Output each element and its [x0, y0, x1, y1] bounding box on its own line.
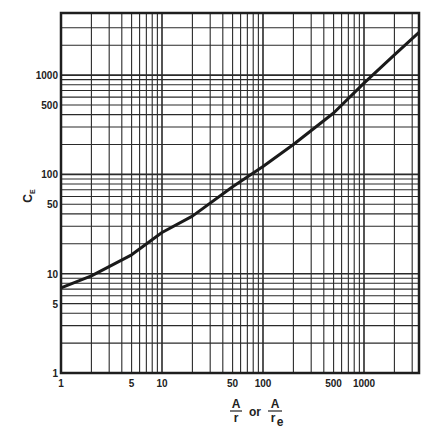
y-tick-label: 500: [41, 100, 58, 111]
y-tick-label: 1: [52, 368, 58, 379]
x-label-den2-sub: e: [277, 415, 284, 429]
x-label-den2: r: [271, 411, 276, 425]
x-tick-label: 500: [325, 378, 342, 389]
x-tick-label: 50: [227, 378, 239, 389]
y-tick-label: 50: [47, 199, 59, 210]
y-label-sub: E: [29, 189, 36, 194]
x-label-or: or: [249, 405, 261, 419]
data-curve: [61, 32, 419, 288]
x-axis-label: A r or A r e: [230, 397, 284, 429]
x-tick-label: 5: [129, 378, 135, 389]
x-tick-label: 100: [255, 378, 272, 389]
y-tick-label: 10: [47, 269, 59, 280]
y-tick-label: 1000: [36, 70, 59, 81]
y-axis-ticks: 1510501005001000: [36, 70, 59, 379]
y-axis-label: CE: [21, 189, 36, 203]
x-tick-label: 10: [156, 378, 168, 389]
x-axis-ticks: 1510501005001000: [58, 378, 375, 389]
x-tick-label: 1000: [353, 378, 376, 389]
y-tick-label: 5: [52, 299, 58, 310]
svg-text:CE: CE: [21, 189, 36, 203]
chart: 1510501005001000 1510501005001000 CE A r…: [0, 0, 433, 437]
x-tick-label: 1: [58, 378, 64, 389]
y-label-main: C: [21, 194, 35, 203]
x-label-den1: r: [234, 411, 239, 425]
x-label-num1: A: [232, 397, 241, 411]
plot-frame: [61, 13, 419, 373]
grid-lines: [61, 13, 419, 373]
y-tick-label: 100: [41, 169, 58, 180]
x-label-num2: A: [271, 397, 280, 411]
